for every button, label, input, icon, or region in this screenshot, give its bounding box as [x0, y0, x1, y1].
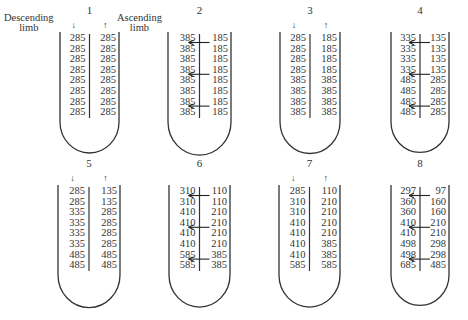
- descending-value: 310: [290, 196, 306, 207]
- descending-value: 285: [70, 32, 86, 43]
- descending-value: 335: [400, 53, 416, 64]
- stage-2: 2385385385385385385385385185185185185185…: [168, 4, 231, 155]
- stage-number: 3: [307, 4, 313, 16]
- descending-value: 385: [290, 106, 306, 117]
- descending-value: 485: [400, 96, 416, 107]
- descending-value: 585: [290, 259, 306, 270]
- descending-value: 385: [180, 64, 196, 75]
- ascending-value: 210: [321, 217, 337, 228]
- ascending-value: 385: [211, 259, 227, 270]
- ascending-value: 185: [321, 32, 337, 43]
- descending-value: 310: [290, 206, 306, 217]
- ascending-value: 285: [100, 64, 116, 75]
- descending-value: 285: [290, 185, 306, 196]
- descending-value: 285: [290, 43, 306, 54]
- descending-value: 285: [70, 106, 86, 117]
- ascending-value: 298: [430, 249, 446, 260]
- ascending-value: 285: [100, 96, 116, 107]
- up-arrow-icon: ↑: [324, 20, 329, 30]
- ascending-value: 135: [430, 64, 446, 75]
- descending-value: 385: [180, 85, 196, 96]
- stage-3: 3↓↑2852852852853853853853851851851851853…: [280, 4, 340, 154]
- ascending-value: 185: [212, 85, 228, 96]
- ascending-value: 385: [321, 106, 337, 117]
- descending-value: 285: [69, 196, 85, 207]
- ascending-value: 285: [430, 106, 446, 117]
- descending-value: 498: [400, 249, 416, 260]
- descending-value: 585: [180, 249, 196, 260]
- stage-5: 5↓↑2852853353353353354854851351352852852…: [58, 157, 120, 308]
- ascending-value: 135: [101, 196, 117, 207]
- descending-value: 485: [69, 259, 85, 270]
- descending-value: 335: [69, 206, 85, 217]
- descending-value: 410: [290, 249, 306, 260]
- ascending-value: 185: [212, 64, 228, 75]
- ascending-value: 285: [100, 53, 116, 64]
- descending-value: 485: [400, 85, 416, 96]
- ascending-value: 485: [101, 249, 117, 260]
- descending-value: 297: [400, 185, 416, 196]
- descending-value: 410: [290, 217, 306, 228]
- ascending-value: 385: [321, 249, 337, 260]
- up-arrow-icon: ↑: [103, 20, 108, 30]
- ascending-value: 135: [430, 32, 446, 43]
- ascending-value: 210: [430, 217, 446, 228]
- countercurrent-multiplier-diagram: Descending limb Ascending limb 1↓↑285285…: [0, 0, 468, 320]
- descending-value: 335: [69, 217, 85, 228]
- descending-value: 485: [69, 249, 85, 260]
- descending-value: 335: [400, 64, 416, 75]
- ascending-value: 210: [211, 217, 227, 228]
- ascending-value: 135: [101, 185, 117, 196]
- stage-7: 7↓↑2853103104104104104105851102102102102…: [279, 157, 340, 307]
- ascending-value: 285: [430, 85, 446, 96]
- ascending-value: 110: [212, 185, 227, 196]
- descending-value: 285: [290, 64, 306, 75]
- stage-number: 4: [417, 4, 423, 16]
- descending-value: 310: [180, 185, 196, 196]
- stage-number: 5: [86, 157, 92, 169]
- loop-of-henle-stages: 1↓↑2852852852852852852852852852852852852…: [0, 0, 468, 320]
- ascending-value: 485: [101, 259, 117, 270]
- ascending-value: 385: [321, 85, 337, 96]
- stage-number: 1: [87, 4, 93, 16]
- ascending-value: 185: [212, 43, 228, 54]
- descending-value: 285: [70, 74, 86, 85]
- ascending-value: 285: [101, 217, 117, 228]
- ascending-value: 285: [100, 32, 116, 43]
- down-arrow-icon: ↓: [291, 173, 296, 183]
- ascending-value: 97: [436, 185, 447, 196]
- descending-value: 335: [69, 227, 85, 238]
- descending-value: 410: [180, 206, 196, 217]
- ascending-value: 285: [100, 106, 116, 117]
- descending-value: 385: [290, 74, 306, 85]
- ascending-value: 210: [430, 227, 446, 238]
- descending-value: 285: [70, 85, 86, 96]
- ascending-value: 285: [100, 74, 116, 85]
- ascending-value: 298: [430, 238, 446, 249]
- ascending-value: 210: [321, 196, 337, 207]
- descending-value: 285: [70, 64, 86, 75]
- ascending-value: 160: [430, 206, 446, 217]
- ascending-value: 385: [321, 238, 337, 249]
- stage-number: 2: [197, 4, 203, 16]
- descending-value: 385: [180, 53, 196, 64]
- ascending-value: 135: [430, 43, 446, 54]
- descending-value: 498: [400, 238, 416, 249]
- up-arrow-icon: ↑: [103, 173, 108, 183]
- ascending-value: 385: [321, 74, 337, 85]
- descending-value: 410: [290, 238, 306, 249]
- down-arrow-icon: ↓: [70, 173, 75, 183]
- descending-value: 285: [290, 32, 306, 43]
- descending-value: 360: [400, 206, 416, 217]
- descending-value: 385: [180, 32, 196, 43]
- ascending-value: 285: [101, 227, 117, 238]
- stage-4: 4335335335335485485485485135135135135285…: [391, 4, 449, 152]
- stage-6: 6310310410410410410585585110110210210210…: [169, 157, 230, 307]
- ascending-value: 210: [211, 238, 227, 249]
- descending-value: 410: [290, 227, 306, 238]
- ascending-value: 285: [101, 206, 117, 217]
- descending-value: 385: [290, 85, 306, 96]
- ascending-value: 385: [321, 96, 337, 107]
- ascending-value: 185: [212, 74, 228, 85]
- ascending-value: 185: [321, 43, 337, 54]
